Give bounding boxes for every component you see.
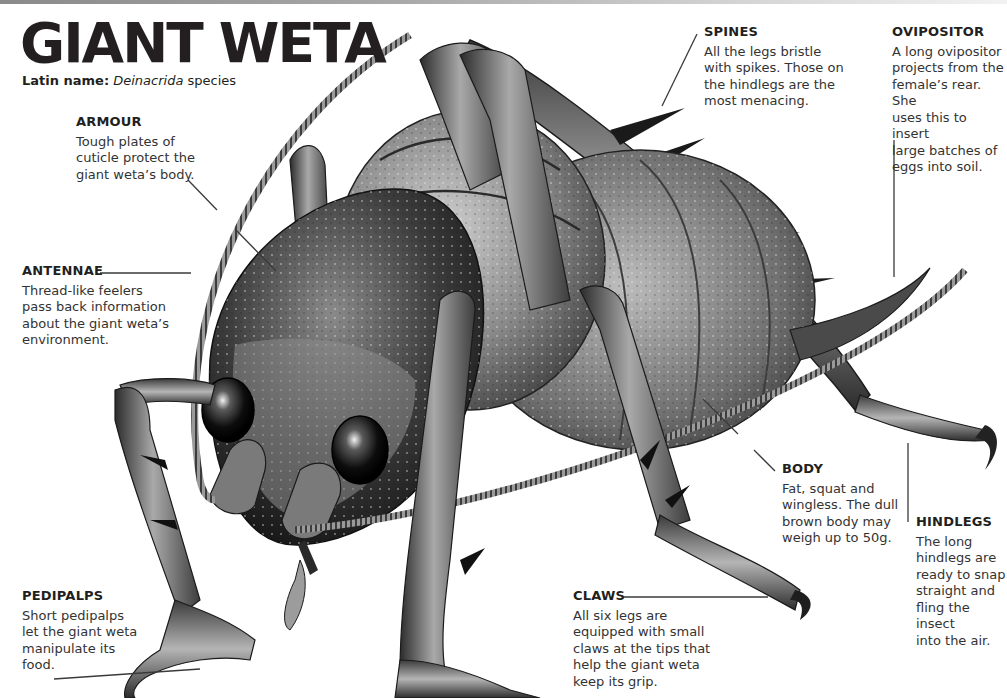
callout-claws: CLAWS All six legs are equipped with sma…	[573, 588, 733, 690]
callout-pedipalps: PEDIPALPS Short pedipalps let the giant …	[22, 588, 182, 674]
callout-claws-heading: CLAWS	[573, 588, 733, 605]
callout-spines-heading: SPINES	[704, 24, 854, 41]
page-title: GIANT WETA	[20, 12, 385, 74]
callout-hindlegs-text: The long hindlegs are ready to snap stra…	[916, 534, 1007, 650]
callout-armour: ARMOUR Tough plates of cuticle protect t…	[76, 114, 236, 183]
latin-suffix: species	[188, 73, 237, 88]
callout-ovipositor-heading: OVIPOSITOR	[892, 24, 1007, 41]
callout-claws-text: All six legs are equipped with small cla…	[573, 608, 733, 691]
callout-spines-text: All the legs bristle with spikes. Those …	[704, 44, 854, 110]
latin-name: Latin name: Deinacrida species	[22, 73, 236, 89]
callout-pedipalps-heading: PEDIPALPS	[22, 588, 182, 605]
callout-antennae-text: Thread-like feelers pass back informatio…	[22, 283, 202, 349]
eye-right	[332, 416, 388, 484]
callout-hindlegs: HINDLEGS The long hindlegs are ready to …	[916, 514, 1007, 649]
callout-body-text: Fat, squat and wingless. The dull brown …	[782, 481, 902, 547]
callout-hindlegs-heading: HINDLEGS	[916, 514, 1007, 531]
callout-armour-text: Tough plates of cuticle protect the gian…	[76, 134, 236, 184]
callout-body-heading: BODY	[782, 461, 902, 478]
callout-antennae-heading: ANTENNAE	[22, 263, 202, 280]
callout-pedipalps-text: Short pedipalps let the giant weta manip…	[22, 608, 182, 674]
callout-body: BODY Fat, squat and wingless. The dull b…	[782, 461, 902, 547]
callout-antennae: ANTENNAE Thread-like feelers pass back i…	[22, 263, 202, 349]
pedipalp	[285, 540, 318, 630]
callout-armour-heading: ARMOUR	[76, 114, 236, 131]
callout-ovipositor-text: A long ovipositor projects from the fema…	[892, 44, 1007, 176]
latin-name-label: Latin name:	[22, 73, 109, 88]
latin-genus: Deinacrida	[113, 73, 183, 88]
callout-ovipositor: OVIPOSITOR A long ovipositor projects fr…	[892, 24, 1007, 176]
callout-spines: SPINES All the legs bristle with spikes.…	[704, 24, 854, 110]
